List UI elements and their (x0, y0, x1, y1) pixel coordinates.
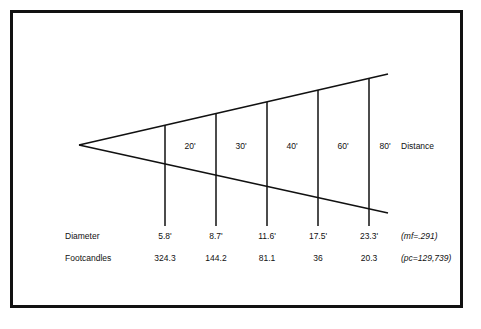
diameter-value-60: 17.5' (309, 232, 327, 241)
distance-axis-label: Distance (401, 142, 434, 151)
distance-label-60: 60' (337, 142, 348, 151)
diameter-value-80: 23.3' (360, 232, 378, 241)
footcandles-note: (pc=129,739) (401, 254, 451, 263)
distance-label-20: 20' (184, 142, 195, 151)
footcandles-value-20: 324.3 (154, 254, 175, 263)
row-label-footcandles: Footcandles (65, 254, 111, 263)
beam-cone-diagram (0, 0, 481, 329)
footcandles-value-40: 81.1 (259, 254, 276, 263)
diameter-value-40: 11.6' (258, 232, 276, 241)
diameter-value-30: 8.7' (209, 232, 222, 241)
cone-lower-edge (79, 145, 388, 213)
row-label-diameter: Diameter (65, 232, 99, 241)
distance-label-40: 40' (286, 142, 297, 151)
footcandles-value-60: 36 (313, 254, 322, 263)
footcandles-value-80: 20.3 (361, 254, 378, 263)
diameter-note: (mf=.291) (401, 232, 438, 241)
cone-upper-edge (79, 74, 388, 145)
diameter-value-20: 5.8' (158, 232, 171, 241)
footcandles-value-30: 144.2 (205, 254, 226, 263)
figure-page: 20' 30' 40' 60' 80' Distance Diameter 5.… (0, 0, 481, 329)
distance-label-80: 80' (379, 142, 390, 151)
distance-label-30: 30' (235, 142, 246, 151)
